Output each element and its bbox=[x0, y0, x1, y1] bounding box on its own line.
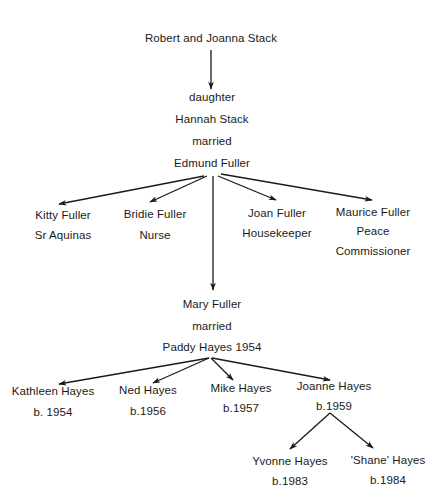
node-kathleen-line-1: b. 1954 bbox=[33, 406, 72, 419]
node-mike-line-1: b.1957 bbox=[223, 402, 259, 415]
edge-arrow-hannah-to-bridie bbox=[150, 176, 207, 202]
node-kitty-line-1: Sr Aquinas bbox=[35, 229, 92, 242]
edge-arrow-mary-to-ned bbox=[153, 358, 209, 383]
node-joan-line-0: Joan Fuller bbox=[248, 207, 306, 220]
node-mary-line-2: Paddy Hayes 1954 bbox=[163, 341, 262, 354]
node-kathleen-line-0: Kathleen Hayes bbox=[12, 385, 95, 398]
node-joan-line-1: Housekeeper bbox=[242, 227, 312, 240]
node-bridie-line-0: Bridie Fuller bbox=[124, 208, 187, 221]
node-hannah-line-3: Edmund Fuller bbox=[174, 157, 250, 170]
node-hannah-line-1: Hannah Stack bbox=[175, 113, 248, 126]
edge-arrow-mary-to-kathleen bbox=[59, 358, 209, 384]
node-hannah-line-0: daughter bbox=[189, 91, 235, 104]
node-bridie-line-1: Nurse bbox=[139, 229, 170, 242]
node-ned-line-1: b.1956 bbox=[130, 405, 166, 418]
node-maurice-line-0: Maurice Fuller bbox=[336, 206, 410, 219]
node-root-line-0: Robert and Joanna Stack bbox=[145, 32, 277, 45]
node-yvonne-line-0: Yvonne Hayes bbox=[252, 455, 327, 468]
node-kitty-line-0: Kitty Fuller bbox=[35, 209, 91, 222]
node-maurice-line-1: Peace bbox=[356, 225, 389, 238]
node-joanne-line-1: b.1959 bbox=[316, 400, 352, 413]
node-maurice-line-2: Commissioner bbox=[336, 245, 411, 258]
node-hannah-line-2: married bbox=[192, 135, 232, 148]
node-mary-line-1: married bbox=[192, 320, 232, 333]
node-ned-line-0: Ned Hayes bbox=[119, 384, 177, 397]
node-mary-line-0: Mary Fuller bbox=[183, 298, 242, 311]
edge-arrow-hannah-to-joan bbox=[218, 176, 276, 200]
node-mike-line-0: Mike Hayes bbox=[210, 382, 271, 395]
edge-arrow-joanne-to-yvonne bbox=[290, 413, 330, 449]
node-yvonne-line-1: b.1983 bbox=[272, 475, 308, 488]
node-shane-line-0: 'Shane' Hayes bbox=[351, 454, 426, 467]
node-shane-line-1: b.1984 bbox=[370, 474, 406, 487]
edge-arrow-joanne-to-shane bbox=[330, 413, 373, 448]
node-joanne-line-0: Joanne Hayes bbox=[297, 380, 372, 393]
edge-arrow-hannah-to-kitty bbox=[59, 176, 204, 204]
